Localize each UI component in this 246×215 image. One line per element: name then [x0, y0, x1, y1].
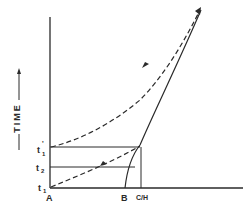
solid-boundary-curve — [125, 10, 201, 188]
label-t2-sub: 2 — [41, 168, 45, 174]
label-b: B — [121, 193, 128, 203]
label-t1-prime: t — [37, 145, 40, 155]
label-t2: t — [36, 163, 39, 173]
y-axis-title-arrow-icon — [17, 68, 21, 74]
lower-arrowhead-icon — [100, 161, 107, 166]
label-c-over-h: C/H — [136, 194, 148, 201]
y-axis-title: TIME — [12, 103, 22, 133]
label-a: A — [46, 193, 53, 203]
label-t1-prime-sub: 1 — [42, 151, 46, 157]
y-axis-title-text: TIME — [12, 103, 22, 133]
upper-arrowhead-icon — [195, 7, 201, 15]
diagram-canvas: TIME t 1 ' t 2 t 1 A B C/H — [0, 0, 246, 215]
label-t1-prime-mark: ' — [42, 140, 44, 147]
label-t1: t — [38, 183, 41, 193]
mid-arrowhead-icon — [142, 62, 149, 68]
upper-dashed-characteristic — [51, 12, 199, 147]
